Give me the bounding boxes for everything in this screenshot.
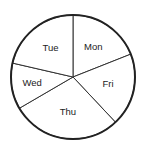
slice-label-thu: Thu [60, 106, 76, 117]
slice-label-mon: Mon [84, 41, 102, 52]
slice-label-fri: Fri [103, 78, 114, 89]
pie-chart: MonFriThuWedTue [0, 0, 142, 147]
slice-label-wed: Wed [22, 77, 41, 88]
slice-label-tue: Tue [43, 42, 59, 53]
